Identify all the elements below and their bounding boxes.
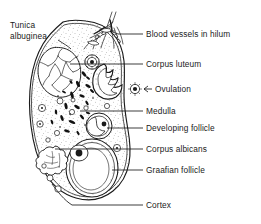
corpus-luteum-boundary: [38, 47, 81, 97]
label-corpus-albicans: Corpus albicans: [146, 144, 207, 154]
leader-blood-vessels: [110, 31, 143, 34]
label-tunica-albuginea-line2: albuginea: [10, 31, 72, 42]
label-developing-follicle: Developing follicle: [146, 123, 215, 133]
label-ovulation: Ovulation: [155, 84, 191, 94]
label-graafian-follicle: Graafian follicle: [146, 165, 205, 175]
graafian-follicle-structure: [66, 139, 118, 197]
label-blood-vessels-in-hilum: Blood vessels in hilum: [146, 29, 230, 39]
label-medulla: Medulla: [146, 106, 176, 116]
ovum: [76, 150, 83, 157]
ovulation-icon: [128, 82, 142, 96]
label-corpus-luteum: Corpus luteum: [146, 59, 201, 69]
corpus-luteum-small: [85, 55, 99, 69]
label-tunica-albuginea-line1: Tunica: [10, 20, 72, 31]
label-tunica-albuginea: Tunica albuginea: [10, 20, 72, 42]
oocyte: [102, 122, 107, 127]
figure-canvas: Tunica albuginea Blood vessels in hilum …: [0, 0, 261, 224]
corpus-luteum-structure: [38, 47, 81, 97]
developing-follicle-structure: [86, 113, 112, 139]
label-cortex: Cortex: [146, 200, 171, 210]
